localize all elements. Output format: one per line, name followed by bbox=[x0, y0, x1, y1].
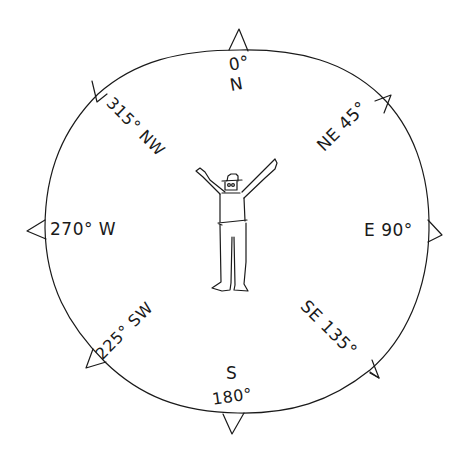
hat-icon bbox=[222, 174, 242, 181]
south-marker-icon bbox=[223, 413, 244, 434]
east-label: E 90° bbox=[364, 222, 413, 239]
south-letter-label: S bbox=[226, 365, 237, 382]
west-label: 270° W bbox=[50, 221, 116, 238]
head-icon bbox=[225, 181, 237, 190]
north-letter-label: N bbox=[229, 75, 245, 94]
left-arm bbox=[196, 168, 225, 194]
west-marker-icon bbox=[27, 220, 46, 239]
east-marker-icon bbox=[428, 220, 442, 242]
belt bbox=[218, 220, 247, 225]
north-degree-label: 0° bbox=[228, 53, 251, 73]
northwest-marker-icon bbox=[92, 81, 107, 102]
right-arm bbox=[242, 159, 277, 198]
north-marker-icon bbox=[229, 29, 248, 51]
compass-drawing: 0° N NE 45° E 90° SE 135° S 180° 225° SW… bbox=[0, 0, 462, 458]
torso bbox=[220, 193, 245, 222]
legs bbox=[212, 223, 248, 291]
person-figure-icon bbox=[196, 159, 277, 291]
